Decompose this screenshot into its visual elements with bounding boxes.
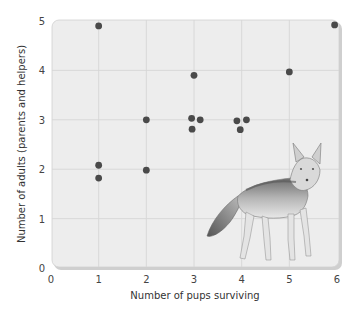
x-tick-label: 1 (95, 274, 101, 285)
y-tick-label: 1 (39, 214, 45, 225)
x-tick-label: 0 (48, 274, 54, 285)
y-axis-ticks: 012345 (39, 16, 45, 274)
data-point (234, 117, 241, 124)
y-tick-label: 2 (39, 164, 45, 175)
x-axis-title: Number of pups surviving (130, 290, 259, 301)
data-point (197, 116, 204, 123)
plot-area (52, 20, 339, 267)
y-tick-label: 3 (39, 115, 45, 126)
x-tick-label: 3 (191, 274, 197, 285)
data-point (237, 126, 244, 133)
data-point (331, 22, 338, 29)
data-point (286, 68, 293, 75)
x-tick-label: 4 (238, 274, 244, 285)
x-tick-label: 6 (334, 274, 340, 285)
x-axis-ticks: 0123456 (48, 274, 340, 285)
y-axis-title: Number of adults (parents and helpers) (16, 45, 27, 243)
y-tick-label: 5 (39, 16, 45, 27)
x-tick-label: 2 (143, 274, 149, 285)
scatter-chart: 0123456 012345 Number of pups surviving … (0, 0, 360, 313)
data-point (95, 175, 102, 182)
data-point (243, 116, 250, 123)
data-point (143, 167, 150, 174)
x-tick-label: 5 (286, 274, 292, 285)
data-point (189, 126, 196, 133)
data-point (95, 162, 102, 169)
y-tick-label: 4 (39, 65, 45, 76)
data-point (95, 23, 102, 30)
data-point (188, 115, 195, 122)
data-point (191, 72, 198, 79)
y-tick-label: 0 (39, 263, 45, 274)
data-point (143, 116, 150, 123)
